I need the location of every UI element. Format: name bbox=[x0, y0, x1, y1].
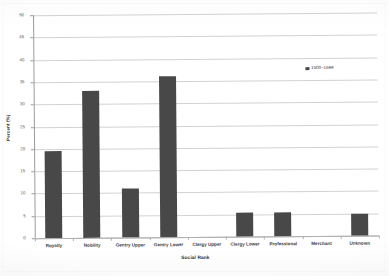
y-axis-tick bbox=[30, 15, 33, 16]
x-axis-tick-label: Gentry Upper bbox=[116, 243, 145, 248]
bar-slot bbox=[301, 13, 341, 236]
bar bbox=[159, 77, 177, 238]
y-axis-tick bbox=[31, 149, 34, 150]
y-axis-tick-label: 35 bbox=[20, 80, 25, 84]
x-axis-tick bbox=[111, 238, 112, 241]
bar bbox=[121, 188, 138, 237]
bar-slot bbox=[148, 14, 188, 237]
y-axis-tick bbox=[30, 38, 33, 39]
legend-entry-label: 1500–1599 bbox=[311, 66, 334, 71]
bars-layer bbox=[33, 13, 379, 239]
x-axis-tick-labels: RoyaltyNobilityGentry UpperGentry LowerC… bbox=[0, 0, 388, 2]
y-axis-tick-label: 25 bbox=[20, 125, 25, 129]
bar-slot bbox=[224, 13, 264, 236]
x-axis-ticks bbox=[0, 0, 388, 2]
x-axis-tick-label: Clergy Lower bbox=[230, 242, 259, 247]
bar-slot bbox=[71, 15, 111, 238]
bar-slot bbox=[109, 14, 149, 237]
y-axis-tick-label: 5 bbox=[23, 214, 25, 218]
y-axis-tick-label: 0 bbox=[23, 236, 25, 240]
x-axis-tick bbox=[226, 237, 227, 240]
x-axis-tick-label: Unknown bbox=[349, 242, 370, 247]
bar bbox=[275, 213, 292, 237]
x-axis-title: Social Rank bbox=[1, 254, 389, 262]
y-axis-tick bbox=[31, 82, 34, 83]
x-axis-tick-label: Gentry Lower bbox=[154, 243, 184, 248]
x-axis-tick-label: Nobility bbox=[84, 244, 101, 249]
y-axis-tick bbox=[31, 171, 34, 172]
bar-chart-figure: 05101520253035404550 RoyaltyNobilityGent… bbox=[0, 0, 389, 276]
bar-slot bbox=[186, 14, 226, 237]
x-axis-tick-label: Clergy Upper bbox=[192, 243, 221, 248]
legend-square-marker bbox=[305, 67, 309, 71]
y-axis-tick-label: 45 bbox=[19, 35, 24, 39]
y-axis-tick bbox=[31, 104, 34, 105]
x-axis-tick-label: Professional bbox=[269, 242, 297, 247]
y-axis-tick-label: 30 bbox=[20, 102, 25, 106]
bar-slot bbox=[262, 13, 302, 236]
y-axis-tick bbox=[31, 194, 34, 195]
plot-area bbox=[33, 13, 379, 239]
y-axis-title: Percent (%) bbox=[7, 115, 12, 141]
chart-legend: 1500–1599 bbox=[305, 66, 333, 71]
y-axis-tick-label: 20 bbox=[20, 147, 25, 151]
x-axis-tick-label: Royalty bbox=[46, 244, 63, 249]
y-axis-tick bbox=[30, 60, 33, 61]
chart-skew-wrapper: 05101520253035404550 RoyaltyNobilityGent… bbox=[0, 0, 389, 276]
y-axis-tick-labels: 05101520253035404550 bbox=[0, 0, 388, 2]
x-axis-tick bbox=[188, 237, 189, 240]
x-axis-tick bbox=[73, 238, 74, 241]
bar bbox=[82, 91, 100, 238]
bar-slot bbox=[339, 13, 379, 236]
bar bbox=[351, 213, 368, 235]
y-axis-tick bbox=[31, 127, 34, 128]
y-axis-tick-label: 15 bbox=[20, 169, 25, 173]
y-axis-tick-label: 40 bbox=[19, 58, 24, 62]
y-axis-tick-label: 50 bbox=[19, 13, 24, 17]
x-axis-tick bbox=[35, 238, 36, 241]
x-axis-tick bbox=[264, 236, 265, 239]
y-axis-tick bbox=[32, 216, 35, 217]
bar bbox=[45, 151, 63, 238]
x-axis-tick bbox=[341, 236, 342, 239]
bar bbox=[236, 213, 253, 237]
x-axis-tick bbox=[302, 236, 303, 239]
x-axis-tick bbox=[379, 236, 380, 239]
y-axis-ticks bbox=[0, 0, 388, 2]
x-axis-tick bbox=[149, 237, 150, 240]
y-axis-tick-label: 10 bbox=[21, 192, 26, 196]
x-axis-tick-label: Merchant bbox=[311, 242, 331, 247]
bar-slot bbox=[33, 15, 73, 238]
